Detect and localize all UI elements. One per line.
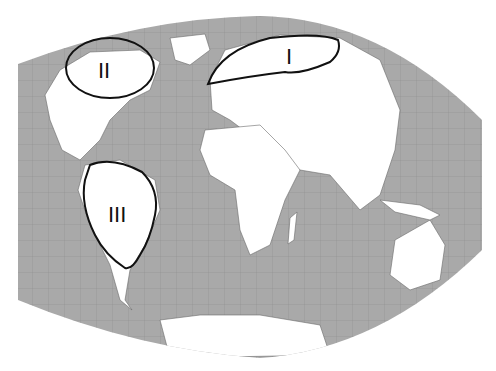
- region-I-label: I: [286, 44, 292, 69]
- region-III-label: III: [108, 202, 126, 227]
- region-II-label: II: [98, 58, 110, 83]
- world-map: II I III: [0, 0, 496, 371]
